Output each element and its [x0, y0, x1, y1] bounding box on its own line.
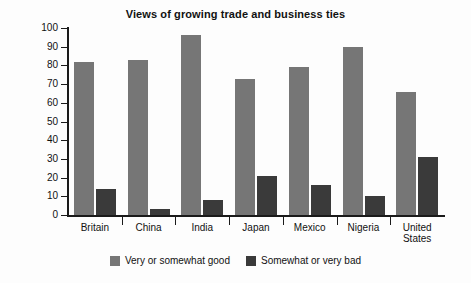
legend-item-label: Very or somewhat good — [125, 255, 230, 266]
bar-group — [337, 28, 391, 215]
x-axis-tick-label: Nigeria — [337, 222, 391, 233]
y-axis-tick-label: 70 — [47, 79, 58, 89]
bar-very-or-somewhat-good — [396, 92, 416, 215]
bar-somewhat-or-very-bad — [418, 157, 438, 215]
y-axis-tick-label: 0 — [52, 210, 58, 220]
x-axis-tick-label: Mexico — [283, 222, 337, 233]
x-axis-tick-label: Japan — [229, 222, 283, 233]
legend-item-label: Somewhat or very bad — [261, 255, 361, 266]
y-axis-tick-label: 10 — [47, 191, 58, 201]
bar-very-or-somewhat-good — [343, 47, 363, 215]
legend-item[interactable]: Very or somewhat good — [110, 255, 230, 266]
x-axis-tick-label: China — [122, 222, 176, 233]
bar-somewhat-or-very-bad — [150, 209, 170, 215]
bar-very-or-somewhat-good — [181, 35, 201, 215]
x-axis-tick-label: United States — [390, 222, 444, 244]
x-axis-group-separator — [122, 216, 123, 225]
bar-somewhat-or-very-bad — [311, 185, 331, 215]
bar-group — [390, 28, 444, 215]
x-axis-group-separator — [390, 216, 391, 225]
y-axis-tick-label: 40 — [47, 135, 58, 145]
bar-group — [122, 28, 176, 215]
bar-very-or-somewhat-good — [289, 67, 309, 215]
plot-area — [68, 28, 444, 215]
bar-very-or-somewhat-good — [235, 79, 255, 216]
legend-swatch-icon — [110, 256, 120, 266]
y-axis-tick-label: 60 — [47, 98, 58, 108]
y-axis-tick-label: 30 — [47, 154, 58, 164]
x-axis-group-separator — [229, 216, 230, 225]
bar-somewhat-or-very-bad — [257, 176, 277, 215]
bar-group — [175, 28, 229, 215]
chart-legend: Very or somewhat goodSomewhat or very ba… — [0, 255, 471, 266]
y-axis-tick-label: 90 — [47, 42, 58, 52]
bar-somewhat-or-very-bad — [365, 196, 385, 215]
bar-somewhat-or-very-bad — [96, 189, 116, 215]
chart-title: Views of growing trade and business ties — [0, 8, 471, 20]
y-axis-tick-label: 50 — [47, 117, 58, 127]
legend-swatch-icon — [246, 256, 256, 266]
x-axis-line — [67, 215, 445, 217]
bar-somewhat-or-very-bad — [203, 200, 223, 215]
y-axis-tick-label: 100 — [41, 23, 58, 33]
x-axis-group-separator — [283, 216, 284, 225]
bar-group — [283, 28, 337, 215]
x-axis-group-separator — [175, 216, 176, 225]
bar-very-or-somewhat-good — [74, 62, 94, 215]
bar-group — [68, 28, 122, 215]
x-axis-group-separator — [337, 216, 338, 225]
bar-group — [229, 28, 283, 215]
y-axis-tick-label: 20 — [47, 173, 58, 183]
x-axis-tick-label: India — [175, 222, 229, 233]
bar-chart: Views of growing trade and business ties… — [0, 0, 471, 283]
legend-item[interactable]: Somewhat or very bad — [246, 255, 361, 266]
y-axis-tick-label: 80 — [47, 60, 58, 70]
x-axis-tick-label: Britain — [68, 222, 122, 233]
bar-very-or-somewhat-good — [128, 60, 148, 215]
